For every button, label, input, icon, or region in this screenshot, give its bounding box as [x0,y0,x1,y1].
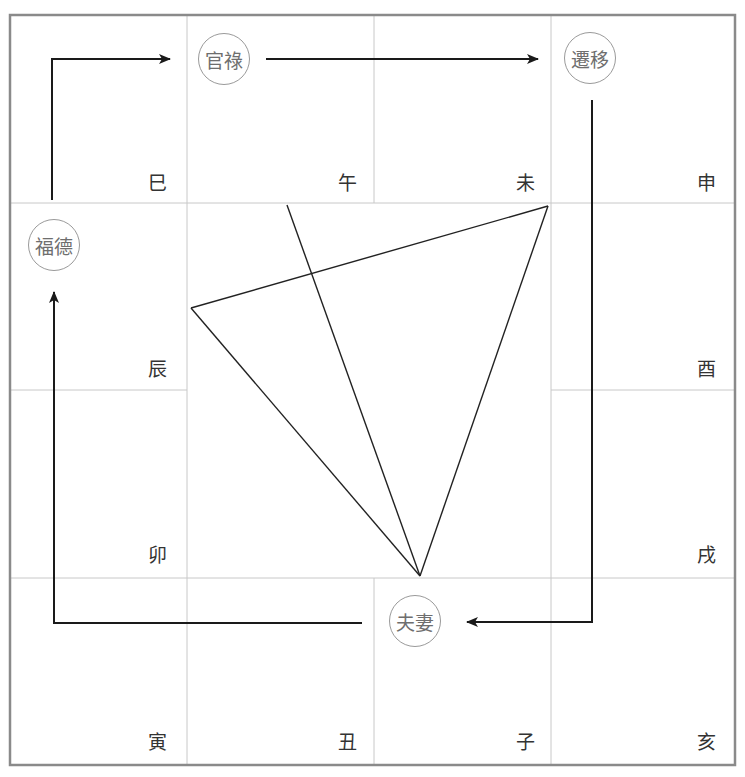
palace-label: 遷移 [571,45,609,72]
center-line [287,205,420,576]
branch-label-wei: 未 [516,174,535,193]
palace-qianyi: 遷移 [564,32,616,84]
grid-lines [10,15,735,765]
arrow-fuqi-to-fude [54,292,362,623]
palace-fude: 福德 [28,219,80,271]
branch-label-shen: 申 [697,174,716,193]
triangle-edge-top [191,206,548,308]
palace-guanlu: 官祿 [198,33,250,85]
triangle-lines [191,205,548,576]
branch-label-zi: 子 [516,733,535,752]
palace-label: 夫妻 [396,608,434,635]
branch-label-chen: 辰 [148,360,167,379]
branch-label-wu: 午 [338,174,357,193]
branch-label-you: 酉 [697,360,716,379]
branch-label-xu: 戌 [697,546,716,565]
flow-arrows [52,59,592,623]
branch-label-si: 巳 [148,174,167,193]
triangle-edge-left [191,308,420,576]
branch-label-hai: 亥 [697,733,716,752]
palace-chart-diagram [0,0,745,777]
branch-label-yin: 寅 [148,733,167,752]
branch-label-chou: 丑 [338,733,357,752]
palace-fuqi: 夫妻 [389,595,441,647]
palace-label: 福德 [35,232,73,259]
branch-label-mao: 卯 [148,546,167,565]
triangle-edge-right [420,206,548,576]
palace-label: 官祿 [205,46,243,73]
